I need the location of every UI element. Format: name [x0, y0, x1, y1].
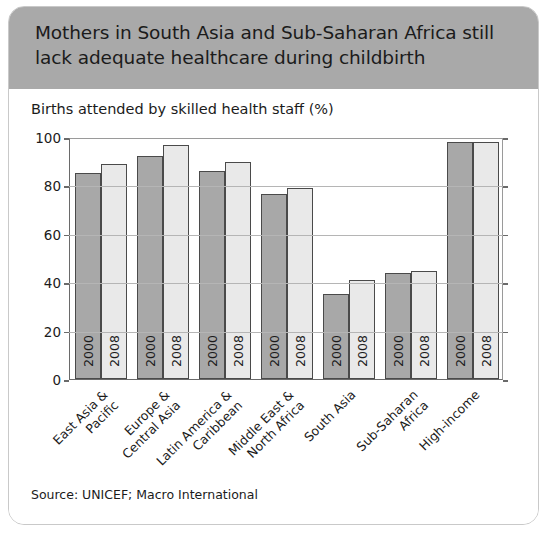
x-axis-category-labels: East Asia & PacificEurope & Central Asia… [69, 383, 503, 483]
y-axis-tick-mark-right [503, 283, 508, 285]
bar-chart: 2000200820002008200020082000200820002008… [31, 131, 518, 486]
y-axis-tick-mark [64, 235, 69, 237]
y-axis-tick-label: 80 [31, 178, 61, 194]
y-axis-tick-mark-right [503, 380, 508, 382]
chart-subtitle: Births attended by skilled health staff … [31, 101, 334, 117]
y-axis-tick-mark [64, 380, 69, 382]
y-axis-tick-mark [64, 283, 69, 285]
y-axis-tick-label: 20 [31, 324, 61, 340]
page-title: Mothers in South Asia and Sub-Saharan Af… [35, 20, 512, 70]
y-axis-tick-mark [64, 332, 69, 334]
y-axis-tick-mark-right [503, 332, 508, 334]
y-axis-tick-mark-right [503, 138, 508, 140]
y-axis-ticks: 020406080100 [31, 131, 518, 391]
y-axis-tick-mark [64, 186, 69, 188]
y-axis-tick-label: 60 [31, 227, 61, 243]
y-axis-tick-mark-right [503, 186, 508, 188]
card-body: Births attended by skilled health staff … [9, 89, 538, 525]
card-header: Mothers in South Asia and Sub-Saharan Af… [9, 7, 538, 89]
chart-card: Mothers in South Asia and Sub-Saharan Af… [8, 6, 539, 525]
y-axis-tick-label: 40 [31, 275, 61, 291]
y-axis-tick-label: 0 [31, 372, 61, 388]
y-axis-tick-label: 100 [31, 130, 61, 146]
source-note: Source: UNICEF; Macro International [31, 487, 258, 502]
y-axis-tick-mark [64, 138, 69, 140]
y-axis-tick-mark-right [503, 235, 508, 237]
